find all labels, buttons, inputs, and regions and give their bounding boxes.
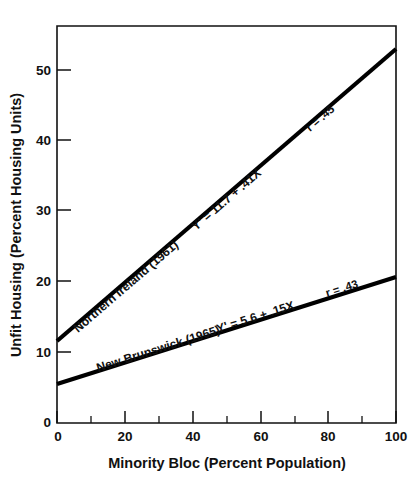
y-axis-title: Unfit Housing (Percent Housing Units) bbox=[8, 93, 24, 357]
x-tick-label-20: 20 bbox=[117, 429, 132, 444]
x-tick-label-80: 80 bbox=[320, 429, 335, 444]
x-tick-label-100: 100 bbox=[385, 429, 408, 444]
series-label-new-brunswick: New Brunswick (1965) bbox=[95, 323, 222, 375]
y-tick-label-50: 50 bbox=[36, 63, 51, 78]
series-equation-new-brunswick: Y' = 5.6 + .15X bbox=[215, 298, 297, 336]
y-tick-label-10: 10 bbox=[36, 345, 51, 360]
y-axis-tick-labels: 50 40 30 20 10 0 bbox=[36, 63, 51, 430]
y-axis-ticks bbox=[57, 70, 71, 352]
chart-canvas: 50 40 30 20 10 0 Unfit Housing (Percent … bbox=[0, 0, 420, 485]
x-axis-title: Minority Bloc (Percent Population) bbox=[108, 455, 346, 471]
y-tick-label-0: 0 bbox=[43, 415, 51, 430]
regression-chart: 50 40 30 20 10 0 Unfit Housing (Percent … bbox=[0, 0, 420, 485]
series-equation-northern-ireland: Y' = 11.7 + .41X bbox=[189, 165, 265, 233]
x-tick-label-60: 60 bbox=[253, 429, 268, 444]
y-tick-label-40: 40 bbox=[36, 133, 51, 148]
y-tick-label-30: 30 bbox=[36, 203, 51, 218]
x-tick-label-0: 0 bbox=[54, 429, 62, 444]
x-axis-tick-labels: 0 20 40 60 80 100 bbox=[54, 429, 407, 444]
x-tick-label-40: 40 bbox=[185, 429, 200, 444]
series-r-northern-ireland: r = .45 bbox=[303, 102, 337, 133]
y-tick-label-20: 20 bbox=[36, 274, 51, 289]
x-axis-ticks bbox=[57, 411, 396, 423]
series-label-northern-ireland: Northern Ireland (1961) bbox=[71, 238, 181, 336]
